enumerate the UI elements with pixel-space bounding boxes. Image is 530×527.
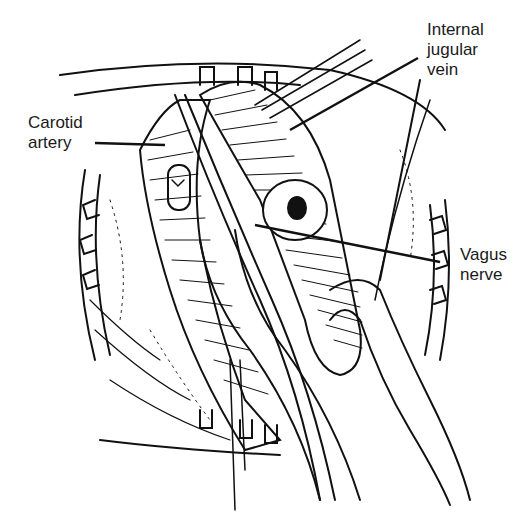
carotid-leader	[95, 143, 165, 145]
vagus-leader	[255, 225, 440, 262]
label-carotid-artery: Carotid artery	[28, 113, 83, 153]
right-retractor	[425, 200, 449, 360]
retracted-tube-left	[200, 230, 360, 500]
vagus-nerve	[175, 95, 320, 500]
label-internal-jugular-vein: Internal jugular vein	[427, 20, 484, 80]
left-retractor	[79, 170, 110, 360]
label-vagus-nerve: Vagus nerve	[460, 245, 507, 285]
carotid-artery	[140, 100, 280, 450]
internal-jugular-vein	[200, 82, 362, 375]
